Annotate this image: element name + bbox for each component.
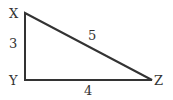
vertex-label-z: Z	[154, 73, 163, 88]
vertex-label-y: Y	[8, 73, 18, 88]
side-label-xy: 3	[9, 36, 17, 51]
side-label-yz: 4	[84, 83, 92, 98]
triangle-xyz	[25, 13, 152, 80]
vertex-label-x: X	[9, 6, 19, 21]
side-label-xz: 5	[88, 28, 96, 43]
triangle-diagram: X Y Z 3 5 4	[0, 0, 173, 100]
